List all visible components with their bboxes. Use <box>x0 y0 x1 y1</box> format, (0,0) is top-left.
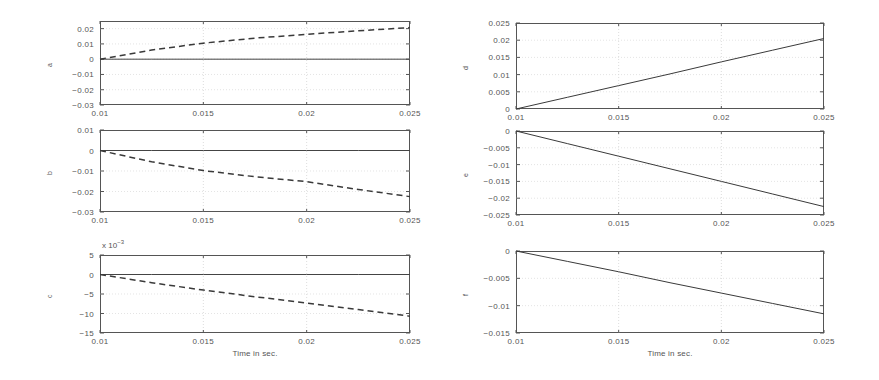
panel-e: 0−0.005−0.01−0.015−0.02−0.025e0.010.0150… <box>516 131 824 215</box>
panel-e-ylabel: e <box>462 173 469 177</box>
panel-c-xlabel: Time in sec. <box>232 349 277 358</box>
panel-a-series-a-dashed <box>100 28 410 60</box>
panel-a-ytick-label: 0 <box>89 55 94 64</box>
panel-e-canvas <box>516 131 838 229</box>
panel-b-ytick-label: −0.02 <box>72 187 94 196</box>
panel-c-ytick-label: −5 <box>84 290 94 299</box>
panel-a-xtick-label: 0.025 <box>399 109 421 118</box>
panel-d-ylabel: d <box>462 66 469 70</box>
panel-b-xtick-label: 0.01 <box>92 216 109 225</box>
panel-c-xtick-label: 0.02 <box>298 337 315 346</box>
panel-c-ytick-label: 0 <box>89 270 94 279</box>
panel-e-ytick-label: −0.025 <box>484 211 511 220</box>
panel-f-xtick-label: 0.025 <box>813 337 835 346</box>
panel-f-ytick-label: −0.01 <box>488 301 510 310</box>
panel-d-ytick-label: 0.005 <box>488 87 510 96</box>
panel-a: 0.020.010−0.01−0.02−0.03a0.010.0150.020.… <box>100 21 410 105</box>
panel-b-ytick-label: 0 <box>89 146 94 155</box>
panel-e-ytick-label: −0.015 <box>484 177 511 186</box>
panel-f-ytick-label: −0.005 <box>484 274 511 283</box>
panel-d-ytick-label: 0.01 <box>493 70 510 79</box>
panel-a-xtick-label: 0.02 <box>298 109 315 118</box>
panel-b-canvas <box>100 130 424 226</box>
panel-c-xtick-label: 0.01 <box>92 337 109 346</box>
panel-e-series-e-solid <box>516 131 824 207</box>
panel-c-xtick-label: 0.015 <box>193 337 215 346</box>
panel-f-ylabel: f <box>462 294 469 296</box>
panel-a-xtick-label: 0.015 <box>193 109 215 118</box>
panel-b-xtick-label: 0.02 <box>298 216 315 225</box>
panel-c-ylabel: c <box>46 295 53 299</box>
panel-c-exponent-label: x 10−3 <box>102 239 124 250</box>
panel-a-ytick-label: 0.01 <box>77 39 94 48</box>
panel-d-xtick-label: 0.015 <box>608 113 630 122</box>
panel-e-ytick-label: −0.005 <box>484 143 511 152</box>
panel-e-ytick-label: −0.01 <box>488 160 510 169</box>
panel-e-xtick-label: 0.025 <box>813 219 835 228</box>
panel-f: 0−0.005−0.01−0.015f0.010.0150.020.025Tim… <box>516 251 824 333</box>
panel-c-canvas <box>100 255 424 347</box>
panel-b-ytick-label: −0.01 <box>72 167 94 176</box>
panel-f-xtick-label: 0.02 <box>713 337 730 346</box>
panel-c: 50−5−10−15cx 10−30.010.0150.020.025Time … <box>100 255 410 333</box>
panel-c-ytick-label: 5 <box>89 251 94 260</box>
panel-b-ylabel: b <box>46 171 53 175</box>
panel-f-ytick-label: −0.015 <box>484 329 511 338</box>
panel-f-ytick-label: 0 <box>505 247 510 256</box>
panel-d-canvas <box>516 23 838 123</box>
panel-c-xtick-label: 0.025 <box>399 337 421 346</box>
panel-d-series-d-solid <box>516 38 824 109</box>
panel-f-xtick-label: 0.01 <box>508 337 525 346</box>
panel-d-ytick-label: 0.015 <box>488 53 510 62</box>
panel-d: 0.0250.020.0150.010.0050d0.010.0150.020.… <box>516 23 824 109</box>
panel-f-series-f-solid <box>516 251 824 314</box>
panel-e-xtick-label: 0.01 <box>508 219 525 228</box>
panel-e-xtick-label: 0.015 <box>608 219 630 228</box>
panel-f-xlabel: Time in sec. <box>647 349 692 358</box>
panel-f-xtick-label: 0.015 <box>608 337 630 346</box>
panel-d-ytick-label: 0.025 <box>488 19 510 28</box>
panel-b-ytick-label: 0.01 <box>77 126 94 135</box>
panel-b-xtick-label: 0.015 <box>193 216 215 225</box>
panel-a-ytick-label: −0.01 <box>72 70 94 79</box>
panel-e-xtick-label: 0.02 <box>713 219 730 228</box>
panel-f-canvas <box>516 251 838 347</box>
panel-d-ytick-label: 0.02 <box>493 36 510 45</box>
panel-b-series-b-dashed <box>100 151 410 197</box>
panel-e-ytick-label: 0 <box>505 127 510 136</box>
panel-a-ytick-label: 0.02 <box>77 24 94 33</box>
panel-d-xtick-label: 0.025 <box>813 113 835 122</box>
panel-d-xtick-label: 0.01 <box>508 113 525 122</box>
panel-b-xtick-label: 0.025 <box>399 216 421 225</box>
panel-b: 0.010−0.01−0.02−0.03b0.010.0150.020.025 <box>100 130 410 212</box>
panel-a-ylabel: a <box>46 63 53 67</box>
panel-d-xtick-label: 0.02 <box>713 113 730 122</box>
panel-a-canvas <box>100 21 424 119</box>
panel-c-series-c-dashed <box>100 275 410 317</box>
panel-e-ytick-label: −0.02 <box>488 194 510 203</box>
panel-c-ytick-label: −10 <box>80 309 94 318</box>
panel-a-ytick-label: −0.02 <box>72 85 94 94</box>
panel-a-xtick-label: 0.01 <box>92 109 109 118</box>
